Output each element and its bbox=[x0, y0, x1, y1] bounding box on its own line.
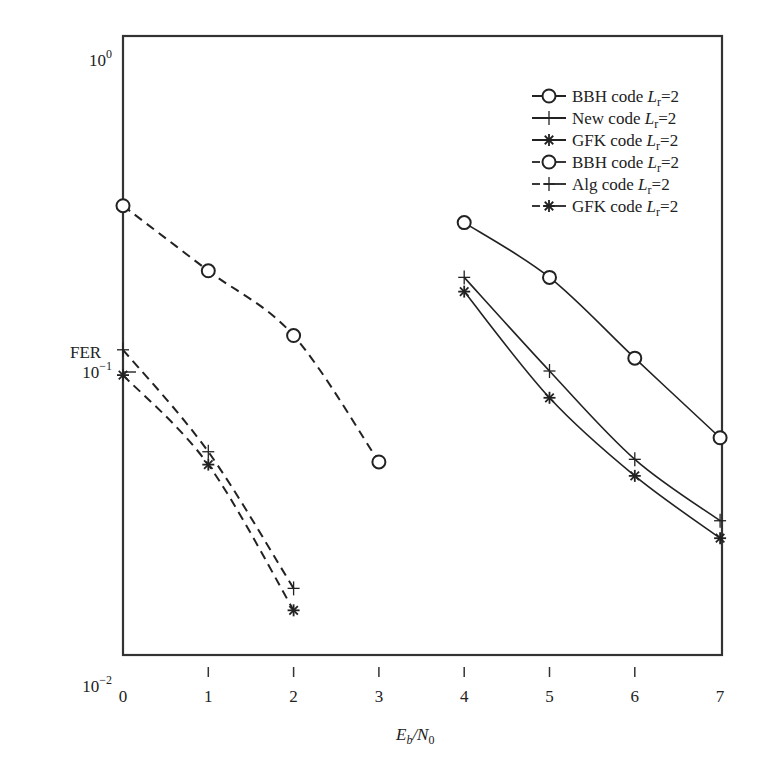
legend-label: GFK code Lr=2 bbox=[572, 131, 678, 153]
legend-label: BBH code Lr=2 bbox=[572, 153, 679, 175]
series-solid-plus bbox=[458, 270, 726, 527]
legend-marker-plus bbox=[543, 111, 555, 125]
data-point-circle bbox=[543, 271, 556, 284]
y-tick-label: 10−1 bbox=[82, 359, 112, 382]
data-point-circle bbox=[202, 264, 215, 277]
legend-marker-asterisk bbox=[543, 134, 555, 146]
y-tick-label: 10−2 bbox=[82, 673, 112, 696]
legend-item: BBH code Lr=2 bbox=[532, 153, 679, 175]
data-point-circle bbox=[714, 431, 727, 444]
x-tick-label: 4 bbox=[460, 687, 469, 706]
data-point-plus bbox=[714, 514, 726, 528]
series-solid-circle bbox=[458, 216, 727, 444]
data-point-plus bbox=[629, 452, 641, 466]
legend-item: GFK code Lr=2 bbox=[532, 197, 678, 219]
data-point-circle bbox=[117, 199, 130, 212]
legend-marker-plus bbox=[543, 177, 555, 191]
x-axis-ticks: 01234567 bbox=[119, 667, 725, 706]
data-point-asterisk bbox=[458, 286, 470, 298]
x-tick-label: 2 bbox=[289, 687, 298, 706]
x-tick-label: 1 bbox=[204, 687, 213, 706]
series-layer bbox=[117, 199, 727, 616]
data-point-circle bbox=[287, 329, 300, 342]
data-point-circle bbox=[458, 216, 471, 229]
fer-chart: 01234567 10010−110−2 FER Eb/N0 BBH code … bbox=[0, 0, 764, 777]
x-tick-label: 5 bbox=[545, 687, 554, 706]
y-axis-label: FER bbox=[70, 343, 102, 362]
legend-marker-asterisk bbox=[543, 200, 555, 212]
legend-label: Alg code Lr=2 bbox=[572, 175, 670, 197]
x-tick-label: 0 bbox=[119, 687, 128, 706]
data-point-asterisk bbox=[544, 392, 556, 404]
x-tick-label: 6 bbox=[631, 687, 640, 706]
legend-marker-circle bbox=[543, 156, 556, 169]
legend-item: GFK code Lr=2 bbox=[532, 131, 678, 153]
legend-label: BBH code Lr=2 bbox=[572, 87, 679, 109]
y-tick-label: 100 bbox=[89, 47, 112, 70]
legend-item: Alg code Lr=2 bbox=[532, 175, 670, 197]
series-line bbox=[123, 206, 379, 462]
data-point-asterisk bbox=[117, 369, 129, 381]
legend: BBH code Lr=2New code Lr=2GFK code Lr=2B… bbox=[532, 87, 679, 219]
legend-item: BBH code Lr=2 bbox=[532, 87, 679, 109]
data-point-asterisk bbox=[629, 470, 641, 482]
y-axis-ticks: 10010−110−2 bbox=[82, 47, 136, 696]
data-point-asterisk bbox=[288, 604, 300, 616]
legend-label: GFK code Lr=2 bbox=[572, 197, 678, 219]
data-point-circle bbox=[628, 352, 641, 365]
legend-label: New code Lr=2 bbox=[572, 109, 676, 131]
x-axis-label: Eb/N0 bbox=[395, 725, 434, 747]
data-point-plus bbox=[288, 581, 300, 595]
series-solid-asterisk bbox=[458, 286, 726, 545]
legend-marker-circle bbox=[543, 90, 556, 103]
series-dashed-asterisk bbox=[117, 369, 300, 616]
x-tick-label: 3 bbox=[375, 687, 384, 706]
data-point-circle bbox=[372, 455, 385, 468]
plot-frame bbox=[123, 36, 722, 655]
x-tick-label: 7 bbox=[716, 687, 725, 706]
series-line bbox=[123, 375, 294, 610]
legend-item: New code Lr=2 bbox=[532, 109, 676, 131]
series-line bbox=[464, 277, 720, 520]
series-dashed-circle bbox=[117, 199, 386, 468]
series-line bbox=[464, 292, 720, 539]
data-point-asterisk bbox=[202, 459, 214, 471]
data-point-asterisk bbox=[714, 532, 726, 544]
series-line bbox=[464, 223, 720, 438]
